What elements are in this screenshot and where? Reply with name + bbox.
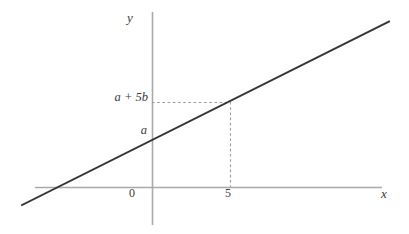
origin-tick-label: 0	[129, 187, 135, 199]
function-line	[22, 22, 389, 206]
y-intercept-label: a	[141, 124, 147, 137]
x-axis-label: x	[381, 187, 387, 200]
linear-function-graph: y x a + 5b a 0 5	[0, 0, 409, 234]
y-axis-label: y	[127, 11, 133, 24]
graph-canvas	[0, 0, 409, 234]
x-tick-label-five: 5	[225, 187, 231, 199]
value-at-five-label: a + 5b	[115, 91, 148, 104]
